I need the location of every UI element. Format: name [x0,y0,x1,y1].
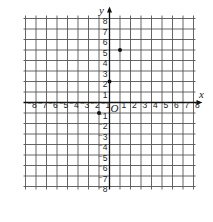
x-tick-label: ⁻7 [38,100,48,110]
axes [24,7,203,190]
x-tick-label: 5 [164,100,169,110]
x-tick-label: ⁻8 [27,100,37,110]
x-tick-label: 4 [153,100,158,110]
y-tick-label: ⁻3 [98,132,108,142]
plotted-point [118,48,122,52]
y-tick-label: ⁻5 [98,153,108,163]
y-tick-label: 8 [103,16,108,26]
y-tick-label: 6 [103,37,108,47]
x-tick-label: 1 [122,100,127,110]
x-tick-label: ⁻2 [90,100,100,110]
y-tick-label: 7 [103,27,108,37]
y-tick-label: 5 [103,48,108,58]
x-tick-label: ⁻6 [48,100,58,110]
y-tick-label: ⁻4 [98,142,108,152]
x-tick-label: 6 [174,100,179,110]
plotted-point [97,111,101,115]
y-tick-label: ⁻8 [98,184,108,194]
y-tick-label: 2 [103,79,108,89]
y-tick-label: ⁻7 [98,174,108,184]
coordinate-plane: ⁻8⁻7⁻6⁻5⁻4⁻3⁻2⁻11234567887654321⁻1⁻2⁻3⁻4… [0,0,213,222]
y-tick-label: 3 [103,69,108,79]
y-tick-label: 1 [103,90,108,100]
y-tick-label: 4 [103,58,108,68]
x-tick-label: 7 [185,100,190,110]
y-axis-arrow-icon [107,7,112,13]
plotted-point [108,80,112,84]
y-tick-label: ⁻2 [98,121,108,131]
x-tick-label: 8 [195,100,200,110]
x-tick-label: 3 [143,100,148,110]
y-tick-label: ⁻6 [98,163,108,173]
x-tick-label: ⁻3 [80,100,90,110]
x-tick-label: ⁻5 [59,100,69,110]
x-tick-label: ⁻1 [101,100,111,110]
y-axis-label: y [98,4,104,16]
x-tick-label: 2 [132,100,137,110]
x-axis-label: x [198,88,204,100]
x-tick-label: ⁻4 [69,100,79,110]
origin-label: O [111,102,119,114]
